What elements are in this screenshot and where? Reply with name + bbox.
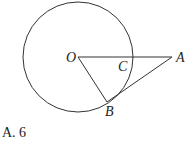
label-b: B [105,105,114,119]
geometry-figure [0,0,191,142]
label-o: O [66,51,76,65]
label-a: A [176,51,185,65]
segment-ob [78,57,107,102]
segment-ab [107,57,172,102]
answer-option-a: A. 6 [2,126,26,140]
label-c: C [118,60,127,74]
